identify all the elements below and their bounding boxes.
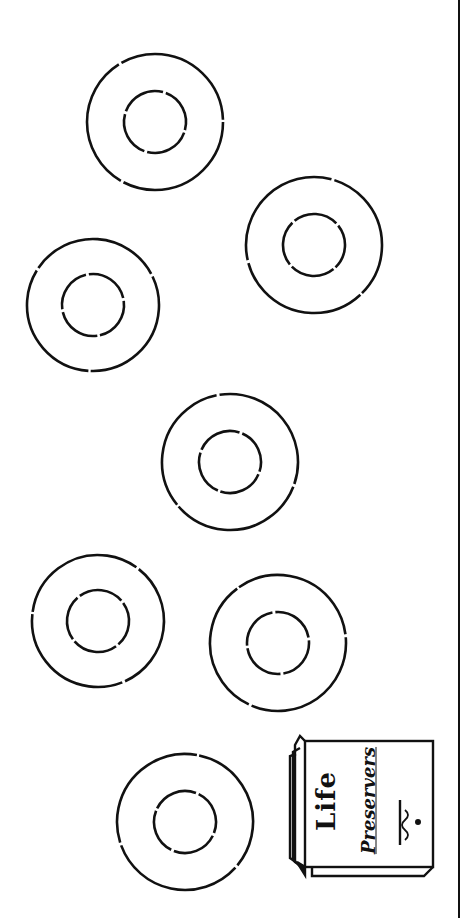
package-title-life: Life xyxy=(311,756,341,846)
life-ring-icon xyxy=(218,149,410,341)
life-ring-icon xyxy=(23,235,164,376)
life-ring-icon xyxy=(23,546,172,695)
life-ring-icon xyxy=(183,548,372,737)
life-ring-icon xyxy=(134,366,325,557)
life-ring-icon xyxy=(87,54,223,190)
life-ring-icon xyxy=(104,741,265,902)
package-title-preservers: Preservers xyxy=(358,736,379,866)
candy-package: Life Preservers xyxy=(285,738,435,878)
